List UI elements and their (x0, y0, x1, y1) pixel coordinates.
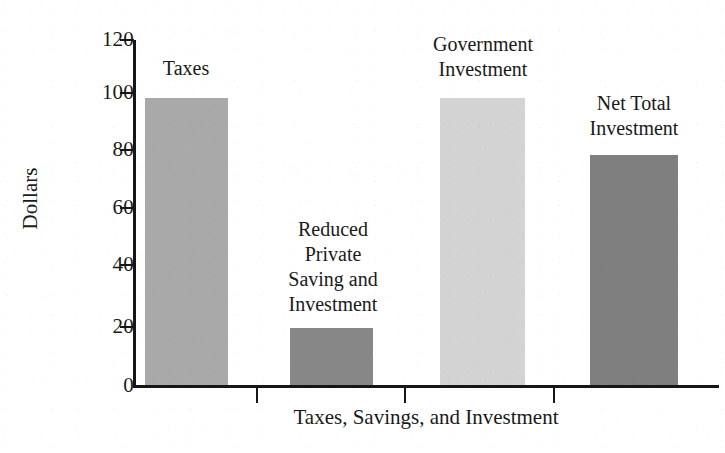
y-tick-mark-60 (120, 207, 134, 209)
y-tick-mark-120 (120, 39, 134, 41)
x-tick-1 (256, 388, 258, 403)
y-tick-label-0: 0 (82, 375, 134, 396)
x-axis-line (133, 385, 719, 388)
bar-label-government-investment: Government Investment (412, 32, 554, 82)
x-tick-2 (404, 388, 406, 403)
y-tick-mark-20 (120, 326, 134, 328)
y-tick-mark-100 (120, 92, 134, 94)
x-axis-title: Taxes, Savings, and Investment (133, 405, 719, 430)
bar-government-investment (440, 98, 525, 385)
bar-taxes (145, 98, 228, 385)
y-tick-mark-80 (120, 149, 134, 151)
y-tick-mark-40 (120, 264, 134, 266)
bar-label-net-total-investment: Net Total Investment (564, 91, 704, 141)
y-axis-title: Dollars (18, 139, 43, 259)
bar-net-total-investment (590, 155, 678, 385)
bar-label-reduced-private-saving-and-investment: Reduced Private Saving and Investment (263, 217, 403, 317)
bar-reduced-private-saving-and-investment (290, 328, 373, 385)
x-tick-3 (553, 388, 555, 403)
bar-chart: Dollars 120 100 80 60 40 20 0 Taxes Redu… (0, 0, 725, 453)
bar-label-taxes: Taxes (126, 56, 246, 81)
